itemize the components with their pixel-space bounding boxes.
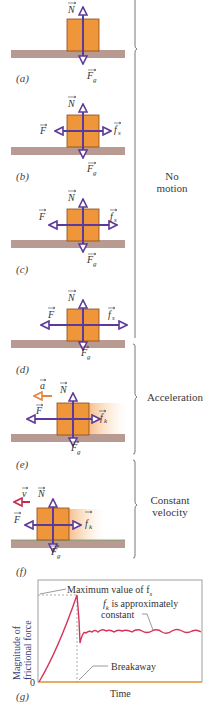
no-motion-line2: motion [148,182,196,194]
vector-label-overarrows [14,2,121,547]
label-N: N [59,384,68,395]
label-N: N [67,292,76,303]
group-label-no-motion: No motion [148,170,196,194]
panel-label-b: (b) [16,170,29,182]
label-fs-sub: s [112,314,115,322]
label-fs-sub: s [114,216,117,224]
label-Fg-sub: g [77,448,81,456]
annotation-fk-constant-2: constant [101,609,134,620]
panel-label-f: (f) [16,565,26,577]
label-F: F [35,405,43,416]
annotation-breakaway: Breakaway [111,661,156,672]
ground [11,147,125,155]
panel-label-c: (c) [16,263,28,275]
panel-f [11,499,125,552]
chart-ylabel-line1: Magnitude of [11,626,22,680]
ground [11,540,125,548]
label-Fg-sub: g [57,552,61,560]
label-v: v [22,488,27,499]
label-F: F [38,211,46,222]
fk-pointer [142,614,153,630]
label-N: N [67,4,76,15]
label-a: a [40,380,45,391]
annotation-max-fs-text: Maximum value of f [67,584,149,595]
constant-velocity-line2: velocity [142,506,198,518]
group-label-constant-velocity: Constant velocity [142,494,198,518]
constant-velocity-line1: Constant [142,494,198,506]
group-label-acceleration: Acceleration [140,391,210,403]
label-Fg-sub: g [93,76,97,84]
annotation-max-fs-sub: s [149,590,152,598]
label-N: N [37,488,46,499]
label-fs-sub: s [118,129,121,137]
panel-b [11,104,125,158]
panel-label-d: (d) [16,363,29,375]
panel-label-g: (g) [16,690,29,702]
label-Fg-sub: g [93,169,97,177]
panel-label-a: (a) [16,72,29,84]
brace-constant-velocity [133,460,137,558]
label-F: F [13,514,21,525]
label-Fg-sub: g [93,260,97,268]
label-Fg-sub: g [87,353,91,361]
brace-no-motion [135,0,137,338]
chart-ylabel-line2: frictional force [22,620,33,680]
brace-acceleration [133,344,137,454]
panel-e [11,393,126,446]
panel-a [11,7,125,64]
panel-d [11,300,127,350]
chart-xlabel: Time [110,688,131,699]
breakaway-pointer [79,666,108,680]
annotation-fk-text1: is approximately [111,598,178,609]
no-motion-line1: No [148,170,196,182]
max-fs-pointer [40,589,66,594]
label-F: F [47,309,55,320]
label-F: F [39,125,47,136]
chart-y-zero-tick: 0 [30,677,35,688]
label-N: N [67,98,76,109]
panel-c [11,199,125,252]
label-N: N [67,192,76,203]
acceleration-line1: Acceleration [140,391,210,403]
panel-label-e: (e) [16,458,28,470]
